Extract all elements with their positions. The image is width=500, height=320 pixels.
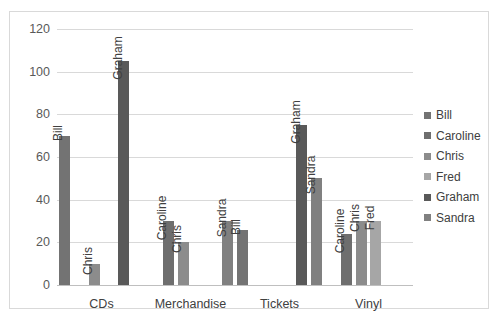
legend-item-bill[interactable]: Bill (424, 105, 494, 126)
bar-data-label-chris: Chris (349, 204, 361, 232)
bar-group-vinyl: CarolineChrisFred (324, 29, 413, 285)
bar-slot-fred: Fred (370, 29, 381, 285)
legend-swatch-icon-fred (424, 173, 431, 180)
y-tick-label-100: 100 (29, 65, 50, 79)
bar-data-label-bill: Bill (230, 219, 242, 235)
legend-swatch-icon-bill (424, 112, 431, 119)
bar-slot-bill: Bill (237, 29, 248, 285)
bar-data-label-chris: Chris (171, 225, 183, 253)
legend-label: Bill (436, 108, 452, 122)
bar-slot-chris: Chris (89, 29, 100, 285)
legend: BillCarolineChrisFredGrahamSandra (424, 105, 494, 228)
bar-data-label-graham: Graham (112, 36, 124, 79)
bar-data-label-fred: Fred (364, 206, 376, 231)
legend-label: Chris (436, 149, 464, 163)
legend-label: Caroline (436, 129, 481, 143)
bar-group-tickets: BillGrahamSandra (235, 29, 324, 285)
category-label-cds: CDs (89, 297, 113, 311)
bar-slot-sandra: Sandra (222, 29, 233, 285)
category-label-merchandise: Merchandise (155, 297, 227, 311)
legend-item-chris[interactable]: Chris (424, 146, 494, 167)
legend-item-sandra[interactable]: Sandra (424, 208, 494, 229)
bar-data-label-bill: Bill (52, 125, 64, 141)
y-tick-label-40: 40 (36, 193, 50, 207)
legend-label: Sandra (436, 211, 475, 225)
y-tick-label-60: 60 (36, 150, 50, 164)
legend-swatch-icon-graham (424, 194, 431, 201)
legend-label: Graham (436, 190, 479, 204)
legend-item-fred[interactable]: Fred (424, 167, 494, 188)
bar-slot-caroline: Caroline (341, 29, 352, 285)
bar-vinyl-fred[interactable]: Fred (370, 221, 381, 285)
y-tick-label-120: 120 (29, 22, 50, 36)
bar-tickets-sandra[interactable]: Sandra (311, 178, 322, 285)
y-tick-label-20: 20 (36, 235, 50, 249)
bar-group-merchandise: CarolineChrisSandra (146, 29, 235, 285)
legend-swatch-icon-chris (424, 153, 431, 160)
bar-data-label-chris: Chris (82, 247, 94, 275)
gridline-0 (57, 285, 413, 286)
bar-slot-sandra: Sandra (311, 29, 322, 285)
bar-cds-bill[interactable]: Bill (59, 136, 70, 285)
category-label-vinyl: Vinyl (355, 297, 382, 311)
bar-cds-graham[interactable]: Graham (118, 61, 129, 285)
bar-vinyl-chris[interactable]: Chris (356, 221, 367, 285)
bar-data-label-sandra: Sandra (305, 156, 317, 195)
y-tick-label-0: 0 (43, 278, 50, 292)
bar-slot-graham: Graham (118, 29, 129, 285)
legend-item-graham[interactable]: Graham (424, 187, 494, 208)
bar-tickets-bill[interactable]: Bill (237, 230, 248, 285)
bar-data-label-caroline: Caroline (156, 196, 168, 241)
bar-slot-bill: Bill (59, 29, 70, 285)
bar-data-label-caroline: Caroline (334, 208, 346, 253)
bar-tickets-graham[interactable]: Graham (296, 125, 307, 285)
chart-container: 020406080100120 BillChrisGrahamCarolineC… (9, 11, 489, 309)
bar-data-label-sandra: Sandra (216, 199, 228, 238)
plot-area: 020406080100120 BillChrisGrahamCarolineC… (57, 29, 413, 285)
legend-item-caroline[interactable]: Caroline (424, 126, 494, 147)
category-label-tickets: Tickets (260, 297, 299, 311)
bar-vinyl-caroline[interactable]: Caroline (341, 234, 352, 285)
bar-slot-chris: Chris (356, 29, 367, 285)
legend-swatch-icon-caroline (424, 132, 431, 139)
bar-data-label-graham: Graham (290, 100, 302, 143)
legend-label: Fred (436, 170, 461, 184)
y-tick-label-80: 80 (36, 107, 50, 121)
legend-swatch-icon-sandra (424, 214, 431, 221)
bar-slot-chris: Chris (178, 29, 189, 285)
bar-merchandise-chris[interactable]: Chris (178, 242, 189, 285)
bar-cds-chris[interactable]: Chris (89, 264, 100, 285)
bar-group-cds: BillChrisGraham (57, 29, 146, 285)
